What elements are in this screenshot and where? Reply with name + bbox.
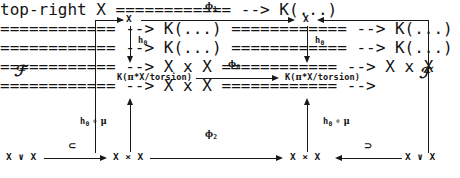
left-outer-path-arrowhead: [117, 17, 124, 23]
h0-left-label: h0: [138, 36, 147, 46]
phi0-arrowhead: [272, 75, 279, 81]
h0-mu-left-compose: ∘: [89, 116, 100, 126]
phi1-arrow-line: [141, 20, 293, 21]
phi2-subscript: 2: [213, 133, 217, 141]
script-f-right-label: ℱ: [419, 66, 431, 81]
h0-right-label: h0: [315, 36, 324, 46]
h0-left-subscript: 0: [143, 39, 147, 47]
phi0-arrow-line: [196, 78, 276, 79]
subset-arrowhead: [100, 155, 107, 161]
h0-mu-left-mu: μ: [101, 116, 108, 126]
node-mid-left-k: K(π*X/torsion): [117, 73, 192, 82]
node-bottom-left-product: X × X: [113, 152, 144, 162]
superset-arrowhead: [335, 155, 342, 161]
h0-right-subscript: 0: [320, 39, 324, 47]
h0-left-arrow-line: [130, 26, 131, 58]
superset-arrow-line: [340, 158, 402, 159]
h0-mu-right-arrow-line: [307, 100, 308, 152]
phi2-arrowhead: [276, 155, 283, 161]
phi1-arrowhead: [288, 17, 295, 23]
script-f-left-label: ℱ: [14, 64, 26, 79]
phi1-label: ϕ1: [205, 2, 217, 12]
node-top-left-x: X: [126, 14, 132, 24]
h0-mu-right-label: h0∘μ: [323, 117, 350, 127]
phi0-subscript: 0: [236, 63, 240, 71]
node-bottom-right-product: X × X: [290, 152, 321, 162]
subset-arrow-line: [44, 158, 104, 159]
mid-right-k-tail: X/torsion): [307, 72, 360, 82]
phi2-label: ϕ2: [205, 130, 217, 140]
subset-label: ⊂: [68, 141, 76, 151]
h0-mu-left-label: h0∘μ: [80, 117, 107, 127]
superset-label: ⊃: [364, 141, 372, 151]
h0-mu-right-compose: ∘: [332, 116, 343, 126]
mid-left-k-tail: X/torsion): [139, 72, 192, 82]
commutative-diagram: ℱ X X top-right X ============ --> ϕ1 ℱ …: [0, 0, 460, 178]
h0-mu-right-arrowhead: [304, 98, 310, 105]
h0-mu-left-arrow-line: [130, 100, 131, 152]
phi0-label: ϕ0: [228, 60, 240, 70]
node-mid-right-k: K(π*X/torsion): [285, 73, 360, 82]
mid-left-k-head: K(: [117, 72, 128, 82]
phi2-arrow-line: [150, 158, 280, 159]
node-bottom-far-right-wedge: X ∨ X: [405, 152, 436, 162]
h0-left-arrowhead: [127, 56, 133, 63]
left-outer-path-vertical-line: [95, 20, 96, 153]
h0-mu-right-mu: μ: [344, 116, 351, 126]
node-bottom-far-left-wedge: X ∨ X: [6, 152, 37, 162]
node-top-right-x: X: [303, 14, 309, 24]
mid-right-k-head: K(: [285, 72, 296, 82]
h0-mu-left-arrowhead: [127, 98, 133, 105]
right-outer-path-arrowhead: [317, 17, 324, 23]
phi1-subscript: 1: [213, 5, 217, 13]
h0-right-arrowhead: [304, 56, 310, 63]
right-outer-path-horizontal-line: [322, 20, 429, 21]
h0-right-arrow-line: [307, 26, 308, 58]
right-outer-path-vertical-line: [428, 20, 429, 153]
